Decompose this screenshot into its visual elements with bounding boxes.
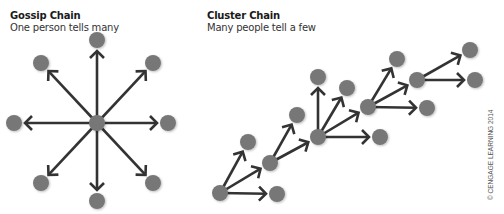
copyright-credit: © CENGAGE LEARNING 2014 xyxy=(487,110,494,200)
person-node xyxy=(310,69,326,85)
person-node xyxy=(310,129,326,145)
person-node xyxy=(33,175,49,191)
gossip-arrow xyxy=(97,123,145,175)
person-node xyxy=(240,134,256,150)
person-node xyxy=(89,193,105,209)
person-node xyxy=(372,129,388,145)
gossip-arrow xyxy=(49,71,97,123)
person-node xyxy=(409,72,425,88)
person-node xyxy=(269,186,285,202)
person-node xyxy=(145,175,161,191)
person-node xyxy=(462,42,478,58)
person-node xyxy=(339,80,355,96)
person-node xyxy=(289,107,305,123)
person-node xyxy=(419,100,435,116)
person-node xyxy=(33,55,49,71)
chain-diagram xyxy=(0,0,504,214)
gossip-arrow xyxy=(97,71,145,123)
person-node xyxy=(212,185,228,201)
person-node xyxy=(262,155,278,171)
person-node xyxy=(389,51,405,67)
person-node xyxy=(89,32,105,48)
person-node xyxy=(6,115,22,131)
person-node xyxy=(467,72,483,88)
person-node xyxy=(360,99,376,115)
gossip-source-node xyxy=(89,115,105,131)
cluster-chain-diagram xyxy=(212,42,483,202)
gossip-arrow xyxy=(49,123,97,175)
person-node xyxy=(145,55,161,71)
person-node xyxy=(160,115,176,131)
gossip-chain-diagram xyxy=(6,32,176,209)
